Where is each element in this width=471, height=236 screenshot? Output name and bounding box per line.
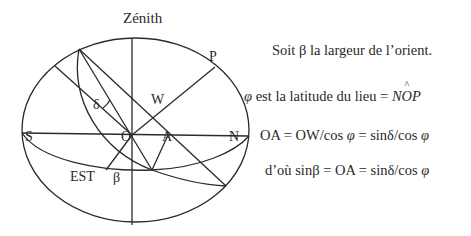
oa-formula-part-2: = sinδ/cos — [355, 127, 421, 143]
nop-p: P — [412, 88, 421, 104]
latitude-text: est la latitude du lieu = — [252, 88, 392, 104]
declination-line — [79, 49, 152, 170]
text-line-3: OA = OW/cos φ = sinδ/cos φ — [260, 128, 429, 143]
nop-n: N — [392, 88, 402, 104]
text-line-2: φ est la latitude du lieu = NOP — [244, 89, 421, 104]
point-o-label: O — [121, 130, 131, 144]
phi-symbol: φ — [421, 162, 429, 178]
point-a-label: A — [162, 130, 172, 144]
beta-label: β — [113, 171, 120, 185]
phi-symbol: φ — [347, 127, 355, 143]
sin-beta-formula: d’où sinβ = OA = sinδ/cos — [265, 162, 421, 178]
horizon-arc — [22, 133, 249, 170]
horizon-line — [22, 133, 249, 136]
est-label: EST — [70, 170, 95, 184]
delta-angle-arc — [103, 100, 110, 108]
text-line-1: Soit β la largeur de l’orient. — [272, 43, 432, 58]
delta-label: δ — [93, 98, 100, 112]
celestial-sphere-diagram — [0, 0, 471, 236]
parallel-chord — [79, 49, 226, 186]
point-w-label: W — [151, 93, 164, 107]
zenith-label: Zénith — [123, 11, 162, 26]
phi-symbol: φ — [421, 127, 429, 143]
polar-axis — [132, 67, 215, 135]
oa-formula-part-1: OA = OW/cos — [260, 127, 347, 143]
point-s-label: S — [25, 130, 33, 144]
meridian-ellipse — [22, 38, 249, 222]
nop-o-hat: O — [402, 89, 412, 104]
nop-angle: NOP — [392, 88, 421, 104]
point-n-label: N — [229, 130, 239, 144]
point-p-label: P — [209, 50, 217, 64]
text-line-4: d’où sinβ = OA = sinδ/cos φ — [265, 163, 429, 178]
phi-symbol: φ — [244, 88, 252, 104]
